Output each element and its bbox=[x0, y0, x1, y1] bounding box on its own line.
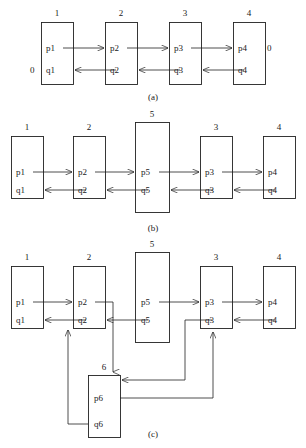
box-a-4 bbox=[234, 23, 266, 85]
port-c-q4: q4 bbox=[268, 316, 277, 325]
panel-caption-b: (b) bbox=[0, 224, 306, 233]
panel-caption-c: (c) bbox=[0, 430, 306, 439]
port-b-p3: p3 bbox=[205, 168, 214, 177]
port-a-q2: q2 bbox=[110, 66, 119, 75]
port-a-p1: p1 bbox=[46, 44, 55, 53]
box-label-b-1: 1 bbox=[11, 123, 43, 132]
port-a-q4: q4 bbox=[238, 66, 247, 75]
box-label-b-4: 4 bbox=[263, 123, 295, 132]
port-a-p2: p2 bbox=[110, 44, 119, 53]
port-a-p3: p3 bbox=[174, 44, 183, 53]
panel-c-arrows bbox=[33, 302, 275, 424]
figure-root: 1 2 3 4 0 0 p1 q1 p2 q2 p3 q3 p4 q4 (a) … bbox=[0, 0, 306, 448]
port-b-q1: q1 bbox=[16, 186, 25, 195]
port-c-q6: q6 bbox=[94, 420, 103, 429]
port-b-p4: p4 bbox=[268, 168, 277, 177]
box-label-c-3: 3 bbox=[200, 253, 232, 262]
box-label-b-3: 3 bbox=[200, 123, 232, 132]
port-c-q2: q2 bbox=[78, 316, 87, 325]
port-b-q3: q3 bbox=[205, 186, 214, 195]
box-label-c-2: 2 bbox=[73, 253, 105, 262]
box-label-c-6: 6 bbox=[88, 363, 120, 372]
port-b-p1: p1 bbox=[16, 168, 25, 177]
arrow-c-q6-q2 bbox=[68, 330, 88, 424]
box-label-c-5: 5 bbox=[135, 240, 169, 249]
box-label-a-4: 4 bbox=[233, 9, 265, 18]
port-b-q5: q5 bbox=[141, 186, 150, 195]
port-c-q1: q1 bbox=[16, 316, 25, 325]
arrow-c-p6-q3 bbox=[120, 332, 213, 398]
port-c-q3: q3 bbox=[205, 316, 214, 325]
panel-b-boxes bbox=[12, 123, 296, 213]
external-zero-left-a: 0 bbox=[30, 66, 35, 75]
port-b-p5: p5 bbox=[141, 168, 150, 177]
port-a-q3: q3 bbox=[174, 66, 183, 75]
port-b-q2: q2 bbox=[78, 186, 87, 195]
box-label-b-2: 2 bbox=[73, 123, 105, 132]
port-c-p2: p2 bbox=[78, 298, 87, 307]
panel-b-arrows bbox=[33, 172, 275, 190]
port-a-q1: q1 bbox=[46, 66, 55, 75]
box-a-3 bbox=[170, 23, 202, 85]
box-a-2 bbox=[106, 23, 138, 85]
box-label-a-3: 3 bbox=[169, 9, 201, 18]
external-zero-right-a: 0 bbox=[267, 44, 272, 53]
port-b-q4: q4 bbox=[268, 186, 277, 195]
port-a-p4: p4 bbox=[238, 44, 247, 53]
box-label-c-4: 4 bbox=[263, 253, 295, 262]
box-label-b-5: 5 bbox=[135, 110, 169, 119]
port-c-p4: p4 bbox=[268, 298, 277, 307]
panel-c-boxes bbox=[12, 253, 296, 438]
port-c-p1: p1 bbox=[16, 298, 25, 307]
port-b-p2: p2 bbox=[78, 168, 87, 177]
panel-a-arrows bbox=[63, 48, 244, 70]
box-label-a-2: 2 bbox=[105, 9, 137, 18]
port-c-p5: p5 bbox=[141, 298, 150, 307]
port-c-p6: p6 bbox=[94, 394, 103, 403]
box-label-c-1: 1 bbox=[11, 253, 43, 262]
panel-a-boxes bbox=[42, 23, 266, 85]
box-label-a-1: 1 bbox=[41, 9, 73, 18]
box-a-1 bbox=[42, 23, 74, 85]
port-c-p3: p3 bbox=[205, 298, 214, 307]
port-c-q5: q5 bbox=[141, 316, 150, 325]
panel-caption-a: (a) bbox=[0, 93, 306, 102]
